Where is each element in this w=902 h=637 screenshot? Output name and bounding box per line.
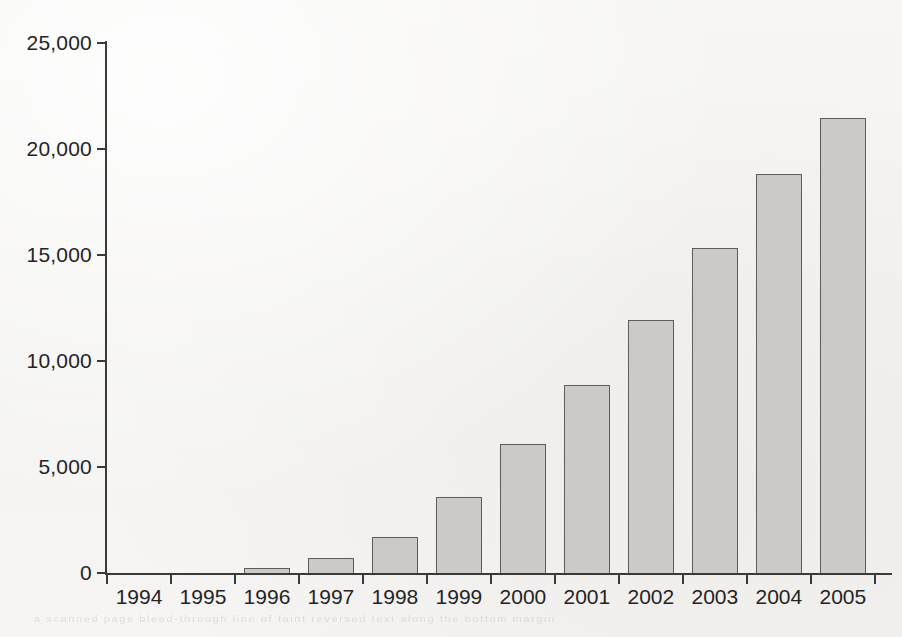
x-axis-line <box>105 573 892 575</box>
x-axis-tick-label: 1994 <box>107 586 171 608</box>
y-axis-tick-label: 15,000 <box>0 244 92 265</box>
x-axis-tick <box>362 575 364 584</box>
x-axis-tick-label: 2003 <box>683 586 747 608</box>
x-axis-tick <box>874 575 876 584</box>
y-axis-tick-label: 0 <box>0 562 92 583</box>
x-axis-tick <box>106 575 108 584</box>
bar-2004 <box>756 174 802 573</box>
y-axis-tick <box>97 466 106 468</box>
bar-2003 <box>692 248 738 573</box>
bar-2000 <box>500 444 546 573</box>
x-axis-tick <box>554 575 556 584</box>
bar-2002 <box>628 320 674 573</box>
bar-1997 <box>308 558 354 573</box>
scanned-page: 05,00010,00015,00020,00025,000 199419951… <box>0 0 902 637</box>
x-axis-tick <box>490 575 492 584</box>
y-axis-tick-label: 25,000 <box>0 32 92 53</box>
x-axis-tick-label: 1999 <box>427 586 491 608</box>
x-axis-tick <box>682 575 684 584</box>
y-axis-tick <box>97 360 106 362</box>
x-axis-tick <box>298 575 300 584</box>
bar-chart: 05,00010,00015,00020,00025,000 199419951… <box>0 0 902 637</box>
x-axis-tick <box>810 575 812 584</box>
x-axis-tick-label: 2000 <box>491 586 555 608</box>
bar-1998 <box>372 537 418 573</box>
y-axis-tick-label: 20,000 <box>0 138 92 159</box>
x-axis-tick-label: 1998 <box>363 586 427 608</box>
bar-2005 <box>820 118 866 573</box>
y-axis-tick <box>97 148 106 150</box>
x-axis-tick-label: 2001 <box>555 586 619 608</box>
y-axis-tick <box>97 42 106 44</box>
bar-1996 <box>244 568 290 573</box>
x-axis-tick-label: 1997 <box>299 586 363 608</box>
bar-2001 <box>564 385 610 573</box>
y-axis-tick <box>97 254 106 256</box>
x-axis-tick <box>746 575 748 584</box>
bar-1999 <box>436 497 482 573</box>
x-axis-tick-label: 2002 <box>619 586 683 608</box>
y-axis-tick-label: 5,000 <box>0 456 92 477</box>
x-axis-tick-label: 2005 <box>811 586 875 608</box>
x-axis-tick-label: 2004 <box>747 586 811 608</box>
x-axis-tick <box>426 575 428 584</box>
x-axis-tick <box>618 575 620 584</box>
x-axis-tick-label: 1995 <box>171 586 235 608</box>
scan-bleed-artifact: a scanned page bleed-through line of fai… <box>34 614 864 627</box>
x-axis-tick <box>170 575 172 584</box>
x-axis-tick <box>234 575 236 584</box>
y-axis-tick-label: 10,000 <box>0 350 92 371</box>
x-axis-tick-label: 1996 <box>235 586 299 608</box>
y-axis-line <box>105 41 107 575</box>
